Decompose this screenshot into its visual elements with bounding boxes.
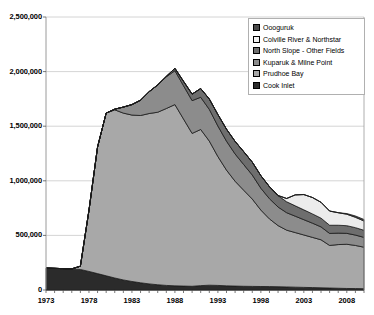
legend-swatch-icon: [253, 47, 260, 54]
legend-item: Oooguruk: [253, 22, 361, 34]
legend-item: North Slope - Other Fields: [253, 45, 361, 57]
legend-swatch-icon: [253, 70, 260, 77]
legend-label: Kuparuk & Milne Point: [263, 58, 332, 67]
legend-label: Prudhoe Bay: [263, 69, 303, 78]
legend-swatch-icon: [253, 24, 260, 31]
legend-item: Cook Inlet: [253, 80, 361, 92]
y-axis-label: 2,500,000: [0, 12, 42, 21]
x-axis-label: 1978: [69, 296, 109, 305]
x-axis-label: 2003: [284, 296, 324, 305]
legend-swatch-icon: [253, 36, 260, 43]
x-axis-label: 1983: [112, 296, 152, 305]
alaska-oil-production-chart: 2,500,0002,000,0001,500,0001,000,000500,…: [0, 0, 374, 315]
chart-legend: OoogurukColville River & NorthstarNorth …: [248, 18, 365, 95]
legend-item: Colville River & Northstar: [253, 34, 361, 46]
x-axis-label: 1998: [241, 296, 281, 305]
y-axis-label: 1,000,000: [0, 176, 42, 185]
legend-label: Colville River & Northstar: [263, 35, 341, 44]
legend-label: Oooguruk: [263, 23, 294, 32]
legend-item: Kuparuk & Milne Point: [253, 57, 361, 69]
x-axis-label: 1993: [198, 296, 238, 305]
legend-swatch-icon: [253, 59, 260, 66]
x-axis-label: 1988: [155, 296, 195, 305]
y-axis-label: 0: [0, 285, 42, 294]
legend-label: North Slope - Other Fields: [263, 46, 344, 55]
legend-item: Prudhoe Bay: [253, 68, 361, 80]
legend-swatch-icon: [253, 82, 260, 89]
x-axis-label: 2008: [327, 296, 367, 305]
x-axis-label: 1973: [26, 296, 66, 305]
y-axis-label: 500,000: [0, 230, 42, 239]
y-axis-label: 2,000,000: [0, 67, 42, 76]
y-axis-label: 1,500,000: [0, 121, 42, 130]
legend-label: Cook Inlet: [263, 81, 295, 90]
